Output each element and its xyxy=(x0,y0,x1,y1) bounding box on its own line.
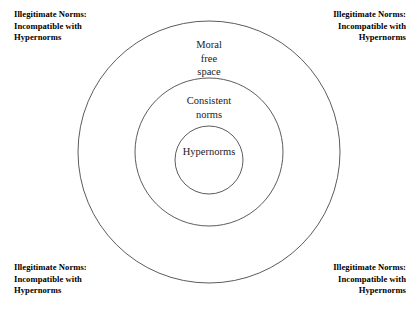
corner-bottom-left-line-2: Incompatible with xyxy=(14,274,87,286)
middle-ring-label: Consistent norms xyxy=(187,94,231,121)
outer-ring-label-line-1: Moral xyxy=(196,38,222,52)
middle-ring-label-line-1: Consistent xyxy=(187,94,231,108)
corner-annotation-top-left: Illegitimate Norms: Incompatible with Hy… xyxy=(14,9,87,44)
corner-bottom-left-line-1: Illegitimate Norms: xyxy=(14,262,87,274)
corner-bottom-right-line-3: Hypernorms xyxy=(333,285,406,297)
corner-bottom-right-line-2: Incompatible with xyxy=(333,274,406,286)
concentric-norms-diagram: Moral free space Consistent norms Hypern… xyxy=(0,0,420,324)
corner-top-right-line-3: Hypernorms xyxy=(333,32,406,44)
corner-annotation-bottom-left: Illegitimate Norms: Incompatible with Hy… xyxy=(14,262,87,297)
outer-ring-label-line-2: free xyxy=(196,52,222,66)
corner-annotation-bottom-right: Illegitimate Norms: Incompatible with Hy… xyxy=(333,262,406,297)
inner-ring-label-line-1: Hypernorms xyxy=(183,145,236,159)
corner-annotation-top-right: Illegitimate Norms: Incompatible with Hy… xyxy=(333,9,406,44)
corner-top-right-line-1: Illegitimate Norms: xyxy=(333,9,406,21)
corner-bottom-left-line-3: Hypernorms xyxy=(14,285,87,297)
inner-ring-circle xyxy=(175,126,243,194)
inner-ring-label: Hypernorms xyxy=(183,145,236,159)
corner-top-right-line-2: Incompatible with xyxy=(333,21,406,33)
outer-ring-label: Moral free space xyxy=(196,38,222,79)
corner-top-left-line-1: Illegitimate Norms: xyxy=(14,9,87,21)
corner-top-left-line-2: Incompatible with xyxy=(14,21,87,33)
middle-ring-label-line-2: norms xyxy=(187,108,231,122)
corner-bottom-right-line-1: Illegitimate Norms: xyxy=(333,262,406,274)
outer-ring-label-line-3: space xyxy=(196,65,222,79)
corner-top-left-line-3: Hypernorms xyxy=(14,32,87,44)
